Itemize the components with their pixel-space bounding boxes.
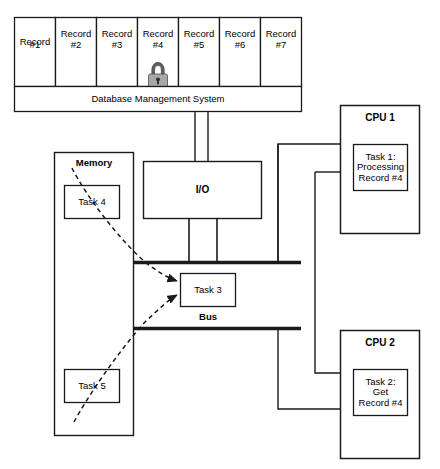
record-box-6[interactable] — [220, 18, 261, 87]
cpu1-task-box[interactable] — [354, 145, 408, 191]
dbms-io-connector — [195, 112, 208, 162]
bus-cpu-connectors — [278, 144, 341, 409]
record-box-2[interactable] — [56, 18, 97, 87]
cpu2-task-box[interactable] — [354, 370, 408, 416]
connector-bus-upper-to-cpu2 — [315, 172, 341, 373]
diagram-canvas: Record #1 Record #2 Record #3 Record #4 … — [0, 0, 440, 469]
record-box-1[interactable] — [15, 18, 56, 87]
record-box-7[interactable] — [261, 18, 302, 87]
record-box-5[interactable] — [179, 18, 220, 87]
memory-task5-box[interactable] — [65, 370, 120, 403]
diagram-vector-layer — [0, 0, 440, 469]
memory-task4-box[interactable] — [65, 186, 120, 219]
record-box-3[interactable] — [97, 18, 138, 87]
connector-bus-lower-to-cpu2 — [278, 328, 341, 409]
dbms-box[interactable] — [15, 87, 302, 112]
task3-box[interactable] — [181, 274, 236, 307]
io-bus-connector — [189, 219, 217, 263]
connector-bus-upper-to-cpu1 — [278, 144, 341, 262]
io-box[interactable] — [144, 162, 262, 219]
